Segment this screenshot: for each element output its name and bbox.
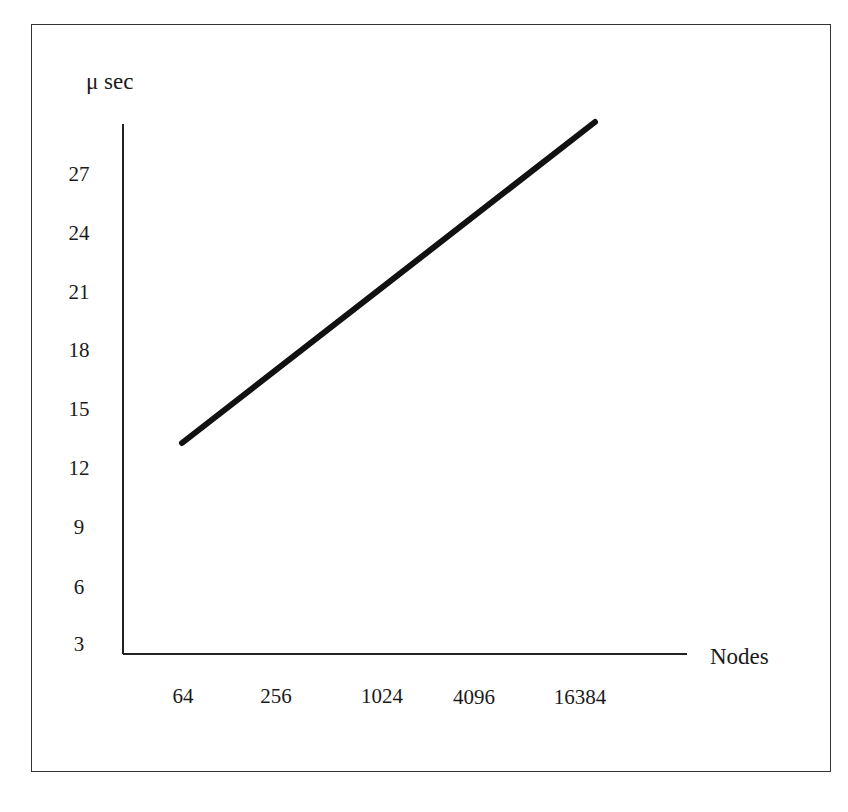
y-tick-label: 6	[74, 577, 85, 598]
y-tick-label: 18	[69, 340, 90, 361]
x-tick-label: 64	[173, 686, 194, 707]
y-tick-label: 3	[74, 634, 85, 655]
y-tick-label: 9	[74, 517, 85, 538]
y-tick-label: 21	[69, 282, 90, 303]
chart-plot	[0, 0, 848, 812]
y-tick-label: 12	[69, 458, 90, 479]
y-tick-label: 24	[69, 223, 90, 244]
x-tick-label: 1024	[361, 686, 403, 707]
x-tick-label: 256	[260, 686, 292, 707]
x-axis-label: Nodes	[710, 645, 769, 668]
y-axis-label: μ sec	[86, 70, 133, 93]
x-tick-label: 4096	[453, 687, 495, 708]
data-line	[182, 122, 595, 443]
y-tick-label: 27	[69, 164, 90, 185]
x-tick-label: 16384	[554, 687, 607, 708]
y-tick-label: 15	[69, 399, 90, 420]
